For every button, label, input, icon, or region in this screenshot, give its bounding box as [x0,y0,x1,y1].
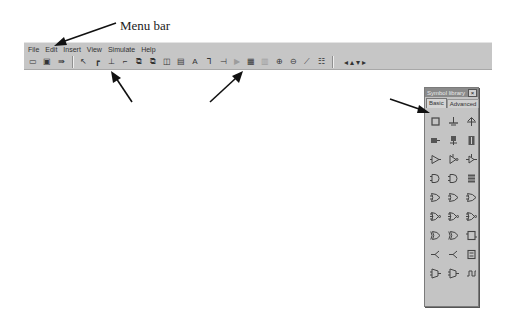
display-7seg-icon[interactable] [464,131,479,150]
arrow-to-toolbar-left [108,70,138,106]
mux-block-icon[interactable] [428,264,443,283]
junction-icon[interactable]: ⊣ [217,56,229,68]
demux-block-icon[interactable] [446,264,461,283]
timing-diagram-icon[interactable]: ▦ [245,56,257,68]
arrow-to-symbol-library [388,96,432,116]
run-simulation-icon[interactable]: ▶ [231,56,243,68]
palette-tabs: Basic Advanced [425,98,478,108]
flipflop-block-icon[interactable] [464,226,479,245]
tab-advanced[interactable]: Advanced [447,99,480,108]
annotation-menu-bar: Menu bar [120,18,170,34]
arrow-to-menu-bar [50,20,120,48]
arrow-to-toolbar-right [206,70,246,106]
toolbar-separator [332,56,334,68]
input-pin-icon[interactable]: ⊥ [105,56,117,68]
toolbar-edit-group: ↖┏⊥⌐⧉⧉◫▤A⅂⊣▶▦▥⊕⊖⟋☷ [77,55,329,69]
output-pin-icon[interactable]: ⌐ [119,56,131,68]
delete-icon[interactable]: ▤ [175,56,187,68]
splitter-right-icon[interactable] [446,245,461,264]
paste-icon[interactable]: ⧉ [147,56,159,68]
inverter-gate-icon[interactable] [446,150,461,169]
splitter-left-icon[interactable] [428,245,443,264]
scroll-left-icon[interactable]: ◂ [344,58,348,67]
wire-tool-icon[interactable]: ┏ [91,56,103,68]
menu-file[interactable]: File [28,46,39,53]
led-output-icon[interactable] [446,131,461,150]
open-folder-icon[interactable]: ▭ [27,56,39,68]
nand-gate-3-icon[interactable] [446,207,461,226]
register-block-icon[interactable] [464,169,479,188]
palette-title-bar[interactable]: Symbol library × [425,88,478,97]
close-icon[interactable]: × [468,89,477,97]
toolbar-file-group: ▭▣⇛ [27,55,69,69]
waveform-icon[interactable]: ⟋ [301,56,313,68]
menu-help[interactable]: Help [141,46,155,53]
copy-icon[interactable]: ⧉ [133,56,145,68]
grid-icon[interactable]: ☷ [315,56,327,68]
or-gate-2-icon[interactable] [428,188,443,207]
text-tool-icon[interactable]: A [189,56,201,68]
vcc-symbol-icon[interactable] [464,112,479,131]
or-gate-4-icon[interactable] [464,188,479,207]
probe-icon[interactable]: ⅂ [203,56,215,68]
toolbar-scroll-group: ◂▴▾▸ [343,58,367,67]
tristate-buffer-icon[interactable] [464,150,479,169]
or-gate-3-icon[interactable] [446,188,461,207]
export-icon[interactable]: ⇛ [55,56,67,68]
scroll-down-icon[interactable]: ▾ [356,58,360,67]
ground-symbol-icon[interactable] [446,112,461,131]
symbol-library-palette: Symbol library × Basic Advanced [424,87,479,307]
save-disk-icon[interactable]: ▣ [41,56,53,68]
symbol-grid [428,112,478,283]
xnor-gate-2-icon[interactable] [446,226,461,245]
scroll-up-icon[interactable]: ▴ [350,58,354,67]
palette-title: Symbol library [427,90,465,96]
scroll-right-icon[interactable]: ▸ [362,58,366,67]
zoom-out-icon[interactable]: ⊖ [287,56,299,68]
application-window: File Edit Insert View Simulate Help ▭▣⇛ … [24,42,492,332]
toolbar-separator [72,56,74,68]
counter-block-icon[interactable] [464,245,479,264]
select-arrow-icon[interactable]: ↖ [77,56,89,68]
and-gate-3-icon[interactable] [446,169,461,188]
zoom-in-icon[interactable]: ⊕ [273,56,285,68]
clock-source-icon[interactable] [464,264,479,283]
nand-gate-2-icon[interactable] [428,207,443,226]
toolbar: ▭▣⇛ ↖┏⊥⌐⧉⧉◫▤A⅂⊣▶▦▥⊕⊖⟋☷ ◂▴▾▸ [24,55,492,70]
truth-table-icon[interactable]: ▥ [259,56,271,68]
buffer-gate-icon[interactable] [428,150,443,169]
xor-gate-2-icon[interactable] [428,226,443,245]
and-gate-2-icon[interactable] [428,169,443,188]
switch-input-icon[interactable] [428,131,443,150]
flip-icon[interactable]: ◫ [161,56,173,68]
nand-gate-4-icon[interactable] [464,207,479,226]
